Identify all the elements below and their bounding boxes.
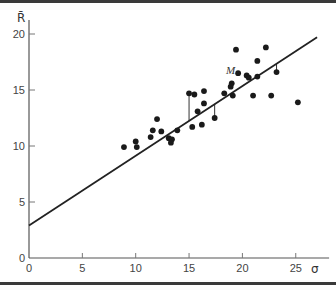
data-point — [150, 127, 156, 133]
data-point — [186, 90, 192, 96]
annotation-m: M — [225, 64, 236, 76]
x-tick-label: 20 — [236, 262, 248, 274]
data-point — [158, 129, 164, 135]
data-point — [133, 139, 139, 145]
x-tick-label: 25 — [290, 262, 302, 274]
data-point — [263, 45, 269, 51]
data-point — [168, 140, 174, 146]
data-point — [134, 144, 140, 150]
data-point — [154, 116, 160, 122]
x-tick-label: 0 — [26, 262, 32, 274]
data-point — [199, 122, 205, 128]
data-point — [230, 93, 236, 99]
axis-ticks: 051015202505101520 — [13, 28, 302, 274]
data-point — [250, 93, 256, 99]
x-tick-label: 5 — [79, 262, 85, 274]
y-tick-label: 10 — [13, 140, 25, 152]
data-point — [295, 99, 301, 105]
axes — [29, 20, 329, 258]
x-axis-label: σ — [311, 262, 319, 276]
data-point — [201, 88, 207, 94]
data-point — [212, 115, 218, 121]
regression-line — [29, 37, 317, 225]
data-point — [121, 144, 127, 150]
data-point — [235, 70, 241, 76]
y-axis-label: R̄ — [17, 11, 25, 25]
y-tick-label: 5 — [19, 196, 25, 208]
y-tick-label: 20 — [13, 28, 25, 40]
data-point — [221, 90, 227, 96]
scatter-chart: 051015202505101520 σ R̄ M — [0, 0, 336, 287]
y-tick-label: 0 — [19, 252, 25, 264]
data-point — [274, 69, 280, 75]
data-point — [233, 47, 239, 53]
data-point — [191, 92, 197, 98]
x-tick-label: 15 — [183, 262, 195, 274]
x-tick-label: 10 — [130, 262, 142, 274]
y-tick-label: 15 — [13, 84, 25, 96]
data-point — [268, 93, 274, 99]
data-point — [254, 58, 260, 64]
data-point — [201, 101, 207, 107]
fit-line — [29, 37, 317, 225]
data-point — [228, 84, 234, 90]
data-point — [189, 124, 195, 130]
data-point — [174, 127, 180, 133]
data-point — [148, 134, 154, 140]
data-point — [246, 75, 252, 81]
data-point — [254, 74, 260, 80]
data-point — [195, 108, 201, 114]
data-points — [121, 45, 301, 150]
